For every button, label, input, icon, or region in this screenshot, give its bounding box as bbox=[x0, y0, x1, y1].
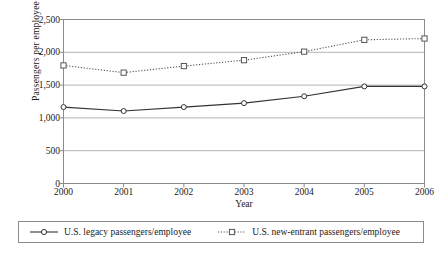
legend-item-legacy: U.S. legacy passengers/employee bbox=[29, 222, 191, 242]
x-axis-title: Year bbox=[63, 199, 425, 209]
data-point-marker bbox=[242, 101, 247, 106]
x-tick-label: 2001 bbox=[102, 187, 146, 198]
legend-item-new-entrant: U.S. new-entrant passengers/employee bbox=[217, 222, 400, 242]
data-point-marker bbox=[61, 105, 66, 110]
x-tick-label: 2005 bbox=[342, 187, 386, 198]
data-point-marker bbox=[121, 109, 126, 114]
data-point-marker bbox=[422, 84, 427, 89]
chart-figure: Passengers per employee 2,5002,0001,5001… bbox=[0, 0, 443, 254]
legend-label-new-entrant: U.S. new-entrant passengers/employee bbox=[252, 227, 400, 237]
plot-area bbox=[0, 0, 443, 254]
x-tick-label: 2006 bbox=[403, 187, 443, 198]
data-point-marker bbox=[181, 63, 186, 68]
gridlines bbox=[64, 20, 425, 151]
data-point-marker bbox=[422, 36, 427, 41]
x-tick-label: 2002 bbox=[162, 187, 206, 198]
data-point-marker bbox=[61, 63, 66, 68]
data-point-marker bbox=[121, 70, 126, 75]
x-tick-label: 2000 bbox=[42, 187, 86, 198]
x-tick-label: 2003 bbox=[222, 187, 266, 198]
series-line bbox=[64, 39, 425, 73]
series-line bbox=[64, 86, 425, 111]
data-point-marker bbox=[302, 94, 307, 99]
data-point-marker bbox=[302, 49, 307, 54]
legend-label-legacy: U.S. legacy passengers/employee bbox=[64, 227, 191, 237]
legend-swatch-dotted-square bbox=[217, 226, 247, 238]
x-tick-label: 2004 bbox=[282, 187, 326, 198]
data-point-marker bbox=[241, 58, 246, 63]
legend-swatch-solid-circle bbox=[29, 226, 59, 238]
y-axis-tick-marks bbox=[60, 20, 64, 184]
chart-legend: U.S. legacy passengers/employee U.S. new… bbox=[18, 221, 424, 243]
data-point-marker bbox=[362, 84, 367, 89]
series-layer bbox=[61, 36, 427, 114]
data-point-marker bbox=[181, 105, 186, 110]
data-point-marker bbox=[362, 37, 367, 42]
